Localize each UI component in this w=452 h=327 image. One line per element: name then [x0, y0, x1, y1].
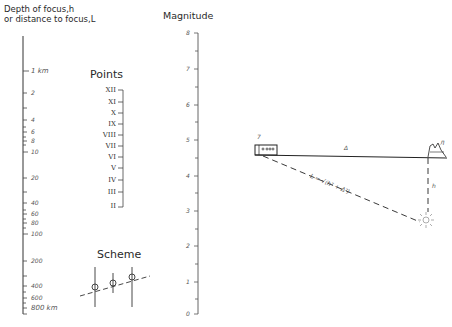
scheme-graphic — [80, 267, 150, 307]
magnitude-label: 3 — [186, 207, 190, 214]
depth-label-800km: 800 km — [31, 304, 57, 312]
depth-label: 80 — [31, 219, 39, 226]
magnitude-label: 4 — [186, 172, 190, 179]
depth-label: 4 — [31, 116, 35, 123]
station-label: 7 — [257, 133, 261, 140]
points-item: II — [94, 202, 116, 210]
points-item: X — [94, 109, 116, 117]
epicenter-marker-label: Л — [440, 139, 445, 146]
depth-label-1km: 1 km — [31, 67, 49, 75]
depth-axis-ticks — [23, 71, 29, 314]
hypocenter-burst-icon — [418, 212, 434, 228]
points-ticks — [118, 90, 123, 207]
diagram-graphics — [0, 0, 452, 327]
depth-label: 20 — [31, 174, 39, 181]
magnitude-title: Magnitude — [163, 10, 213, 21]
points-item: IV — [94, 176, 116, 184]
depth-label: 400 — [31, 282, 42, 289]
depth-label: 40 — [31, 199, 39, 206]
depth-h-label: h — [432, 182, 436, 189]
points-item: VIII — [94, 131, 116, 139]
points-item: V — [94, 164, 116, 172]
depth-label: 2 — [31, 89, 35, 96]
points-item: IX — [94, 120, 116, 128]
points-item: XI — [94, 98, 116, 106]
points-item: VII — [94, 142, 116, 150]
depth-label: 100 — [31, 230, 42, 237]
magnitude-label: 5 — [186, 136, 190, 143]
depth-label: 10 — [31, 148, 39, 155]
depth-label: 6 — [31, 128, 35, 135]
points-item: VI — [94, 153, 116, 161]
magnitude-label: 1 — [186, 278, 190, 285]
points-item: XII — [94, 86, 116, 94]
magnitude-label: 8 — [186, 29, 190, 36]
magnitude-label: 7 — [186, 65, 190, 72]
depth-label: 8 — [31, 137, 35, 144]
magnitude-label: 6 — [186, 101, 190, 108]
depth-label: 200 — [31, 257, 42, 264]
distance-label: Δ — [344, 144, 348, 151]
points-heading: Points — [90, 68, 123, 81]
magnitude-ticks — [194, 33, 198, 314]
depth-label: 600 — [31, 294, 42, 301]
magnitude-label: 0 — [186, 310, 190, 317]
depth-label: 60 — [31, 210, 39, 217]
scheme-heading: Scheme — [97, 248, 141, 261]
magnitude-label: 2 — [186, 242, 190, 249]
focus-geometry — [255, 143, 447, 228]
points-item: III — [94, 188, 116, 196]
